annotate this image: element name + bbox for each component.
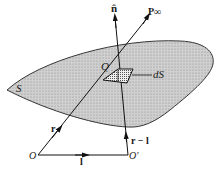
- label-origin: O: [29, 151, 36, 161]
- label-surface: S: [16, 83, 22, 94]
- label-r-minus-l: r − l: [131, 136, 149, 146]
- surface-s: [7, 41, 213, 127]
- label-far-point: P∞: [148, 7, 161, 17]
- surface-diagram: n̂ P∞ Q dS S r r − l O O′ l: [0, 0, 224, 185]
- label-displacement: l: [80, 157, 83, 167]
- label-r: r: [51, 124, 55, 134]
- label-ds: dS: [153, 69, 164, 80]
- label-normal: n̂: [111, 3, 117, 14]
- label-q: Q: [101, 61, 109, 72]
- label-shifted-origin: O′: [129, 151, 138, 161]
